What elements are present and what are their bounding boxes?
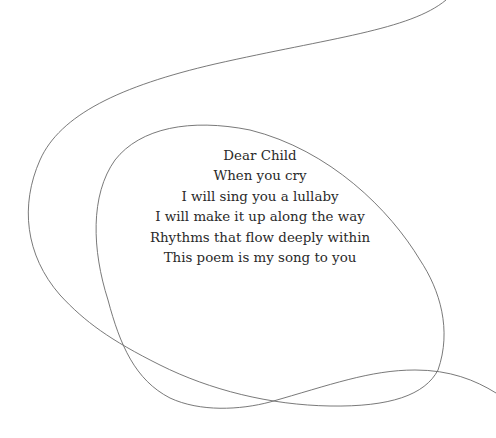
poem-line: I will sing you a lullaby (100, 187, 420, 207)
poem-line: Rhythms that flow deeply within (100, 228, 420, 248)
poem-line: This poem is my song to you (100, 248, 420, 268)
poem-line: Dear Child (100, 146, 420, 166)
poem-page: Dear Child When you cry I will sing you … (0, 0, 496, 438)
poem-line: I will make it up along the way (100, 207, 420, 227)
poem-line: When you cry (100, 166, 420, 186)
poem-text: Dear Child When you cry I will sing you … (100, 146, 420, 268)
